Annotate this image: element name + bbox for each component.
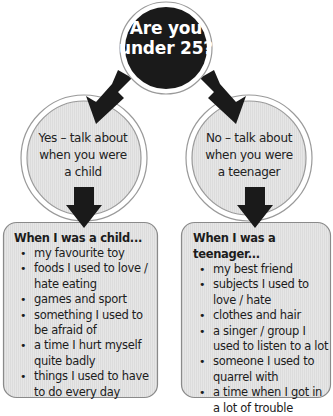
child-topics-box: When I was a child... my favourite toy f…: [14, 230, 156, 400]
list-item: something I used to be afraid of: [14, 308, 156, 339]
no-line-1: No – talk about: [192, 130, 306, 147]
child-box-title: When I was a child...: [14, 230, 156, 246]
list-item: subjects I used to love / hate: [193, 277, 331, 308]
teenager-box-title: When I was a teenager...: [193, 230, 331, 262]
child-topics-list: my favourite toy foods I used to love / …: [14, 246, 156, 400]
list-item: my favourite toy: [14, 246, 156, 261]
question-line-1: Are you: [116, 18, 216, 38]
list-item: my best friend: [193, 262, 331, 277]
teenager-topics-box: When I was a teenager... my best friend …: [193, 230, 331, 416]
list-item: clothes and hair: [193, 308, 331, 323]
list-item: a time I hurt myself quite badly: [14, 338, 156, 369]
yes-line-1: Yes – talk about: [26, 130, 140, 147]
question-label: Are you under 25?: [116, 18, 216, 58]
no-line-2: when you were: [192, 147, 306, 164]
yes-branch-label: Yes – talk about when you were a child: [26, 130, 140, 181]
teenager-topics-list: my best friend subjects I used to love /…: [193, 262, 331, 416]
list-item: foods I used to love / hate eating: [14, 261, 156, 292]
list-item: a singer / group I used to listen to a l…: [193, 324, 331, 355]
list-item: someone I used to quarrel with: [193, 354, 331, 385]
list-item: a time when I got in a lot of trouble: [193, 385, 331, 416]
no-branch-label: No – talk about when you were a teenager: [192, 130, 306, 181]
no-line-3: a teenager: [192, 164, 306, 181]
yes-line-3: a child: [26, 164, 140, 181]
list-item: things I used to have to do every day: [14, 369, 156, 400]
list-item: games and sport: [14, 292, 156, 307]
yes-line-2: when you were: [26, 147, 140, 164]
question-line-2: under 25?: [116, 38, 216, 58]
